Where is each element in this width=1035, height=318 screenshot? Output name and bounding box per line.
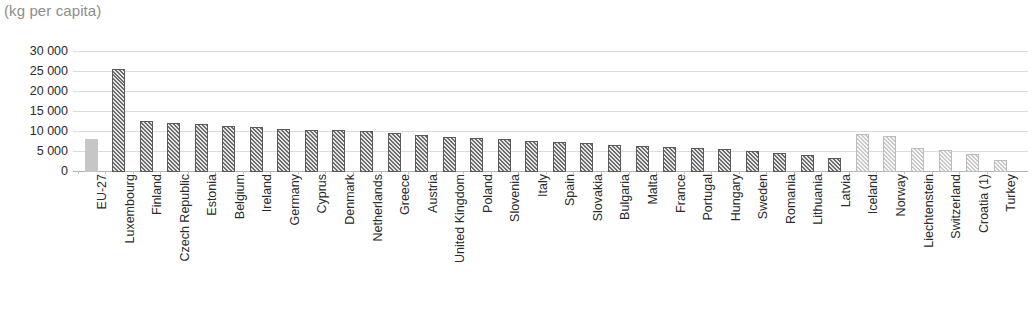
- x-axis-tick-label: Slovenia: [509, 174, 522, 222]
- x-axis-tick-label: Ireland: [261, 174, 274, 212]
- bar: [443, 137, 456, 172]
- x-axis-tick: [436, 171, 437, 174]
- x-axis-tick-label: Iceland: [867, 174, 880, 214]
- x-axis-tick: [518, 171, 519, 174]
- bar: [580, 143, 593, 172]
- x-axis-tick: [904, 171, 905, 174]
- chart-title: (kg per capita): [4, 2, 101, 19]
- x-axis-tick-label: Slovakia: [592, 174, 605, 221]
- x-axis-tick-label: Spain: [564, 174, 577, 206]
- x-axis-tick-label: Finland: [151, 174, 164, 215]
- bar: [360, 131, 373, 172]
- bar: [305, 130, 318, 172]
- x-axis-tick: [133, 171, 134, 174]
- bar: [250, 127, 263, 172]
- x-axis-tick-label: Luxembourg: [124, 174, 137, 244]
- bar: [911, 148, 924, 172]
- x-axis-tick: [270, 171, 271, 174]
- x-axis-tick: [711, 171, 712, 174]
- x-axis-tick: [739, 171, 740, 174]
- bar: [773, 153, 786, 172]
- bar: [856, 134, 869, 172]
- x-axis-tick-label: Denmark: [344, 174, 357, 225]
- bar: [994, 160, 1007, 172]
- x-axis-tick-label: Austria: [427, 174, 440, 213]
- x-axis-tick-label: Bulgaria: [619, 174, 632, 220]
- bar: [112, 69, 125, 172]
- bar: [801, 155, 814, 172]
- x-axis-tick-label: Poland: [482, 174, 495, 213]
- x-axis-tick: [932, 171, 933, 174]
- x-axis-tick-label: Romania: [785, 174, 798, 224]
- x-axis-tick: [160, 171, 161, 174]
- x-axis-tick: [298, 171, 299, 174]
- y-axis: 05 00010 00015 00020 00025 00030 000: [0, 44, 68, 180]
- x-axis-tick-label: Cyprus: [316, 174, 329, 214]
- x-axis-tick: [243, 171, 244, 174]
- x-axis-tick-label: Czech Republic: [179, 174, 192, 262]
- x-axis-tick-label: Greece: [399, 174, 412, 215]
- x-axis-tick-label: Sweden: [757, 174, 770, 219]
- x-axis-tick: [684, 171, 685, 174]
- x-axis-tick-label: Belgium: [234, 174, 247, 219]
- x-axis-tick-label: Italy: [537, 174, 550, 197]
- bar: [939, 150, 952, 172]
- x-axis-tick-label: Turkey: [1005, 174, 1018, 212]
- x-axis-tick: [463, 171, 464, 174]
- x-axis-tick: [78, 171, 79, 174]
- x-axis-tick: [105, 171, 106, 174]
- x-axis-tick: [849, 171, 850, 174]
- bar-chart: (kg per capita) 05 00010 00015 00020 000…: [0, 0, 1035, 318]
- x-axis-tick: [381, 171, 382, 174]
- bar: [415, 135, 428, 172]
- x-axis-tick-label: Hungary: [730, 174, 743, 221]
- x-axis-tick: [546, 171, 547, 174]
- y-axis-tick-label: 15 000: [0, 105, 68, 118]
- y-axis-tick-label: 25 000: [0, 65, 68, 78]
- bar: [388, 133, 401, 172]
- x-axis-tick: [601, 171, 602, 174]
- x-axis-tick-label: France: [675, 174, 688, 213]
- x-axis-tick-label: Malta: [647, 174, 660, 205]
- y-axis-tick-label: 20 000: [0, 85, 68, 98]
- bar: [718, 149, 731, 172]
- x-axis-tick-label: Estonia: [206, 174, 219, 216]
- bar: [222, 126, 235, 172]
- x-axis-tick-label: Lithuania: [812, 174, 825, 225]
- y-axis-tick-label: 30 000: [0, 45, 68, 58]
- bar: [883, 136, 896, 172]
- y-axis-tick-label: 5 000: [0, 145, 68, 158]
- bar: [746, 151, 759, 172]
- bar: [140, 121, 153, 172]
- x-axis-tick: [766, 171, 767, 174]
- x-axis-tick: [794, 171, 795, 174]
- x-axis-tick: [491, 171, 492, 174]
- x-axis-tick: [959, 171, 960, 174]
- bar: [966, 154, 979, 172]
- x-axis-tick-label: Latvia: [840, 174, 853, 207]
- x-axis-tick: [215, 171, 216, 174]
- x-axis-tick: [821, 171, 822, 174]
- bar: [470, 138, 483, 172]
- x-axis-tick: [573, 171, 574, 174]
- x-axis-tick-label: Liechtenstein: [923, 174, 936, 248]
- bars-layer: [73, 51, 1028, 172]
- x-axis-tick-label: EU-27: [96, 174, 109, 209]
- x-axis-tick: [325, 171, 326, 174]
- x-axis: EU-27LuxembourgFinlandCzech RepublicEsto…: [73, 174, 1028, 314]
- x-axis-tick: [629, 171, 630, 174]
- x-axis-tick-label: Croatia (1): [978, 174, 991, 233]
- x-axis-tick-label: Norway: [895, 174, 908, 216]
- x-axis-tick-label: Portugal: [702, 174, 715, 221]
- x-axis-tick: [188, 171, 189, 174]
- bar: [332, 130, 345, 172]
- y-axis-tick-label: 0: [0, 165, 68, 178]
- bar: [85, 139, 98, 172]
- x-axis-tick: [408, 171, 409, 174]
- bar: [553, 142, 566, 172]
- bar: [525, 141, 538, 172]
- bar: [167, 123, 180, 172]
- bar: [277, 129, 290, 172]
- x-axis-tick: [987, 171, 988, 174]
- x-axis-tick-label: Germany: [289, 174, 302, 225]
